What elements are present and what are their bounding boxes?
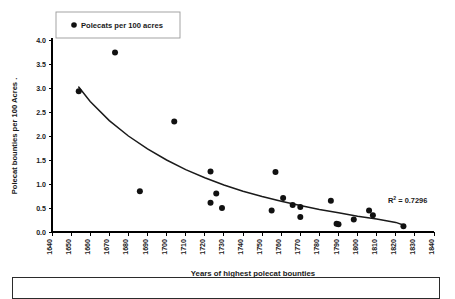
x-tick-label: 1690 bbox=[142, 239, 150, 255]
data-point[interactable] bbox=[370, 212, 376, 218]
x-tick-label: 1760 bbox=[275, 239, 283, 255]
x-tick-label: 1640 bbox=[46, 239, 54, 255]
x-tick-label: 1720 bbox=[199, 239, 207, 255]
bottom-frame-box bbox=[12, 277, 440, 299]
data-point[interactable] bbox=[351, 217, 357, 223]
y-tick-label: 4.0 bbox=[36, 37, 46, 45]
data-point[interactable] bbox=[272, 169, 278, 175]
data-point[interactable] bbox=[336, 221, 342, 227]
x-tick-label: 1670 bbox=[103, 239, 111, 255]
data-point[interactable] bbox=[213, 191, 219, 197]
x-tick-label: 1740 bbox=[237, 239, 245, 255]
y-tick-label: 0.0 bbox=[36, 229, 46, 237]
data-point[interactable] bbox=[112, 49, 118, 55]
data-point[interactable] bbox=[280, 195, 286, 201]
data-point[interactable] bbox=[76, 88, 82, 94]
data-point[interactable] bbox=[366, 207, 372, 213]
legend-label: Polecats per 100 acres bbox=[81, 21, 163, 30]
x-tick-label: 1800 bbox=[352, 239, 360, 255]
legend-marker-icon bbox=[71, 22, 77, 28]
data-point[interactable] bbox=[137, 188, 143, 194]
x-tick-label: 1820 bbox=[390, 239, 398, 255]
x-tick-label: 1830 bbox=[409, 239, 417, 255]
data-point[interactable] bbox=[290, 202, 296, 208]
y-tick-label: 0.5 bbox=[36, 205, 46, 213]
x-tick-label: 1840 bbox=[428, 239, 436, 255]
y-tick-label: 1.5 bbox=[36, 157, 46, 165]
x-tick-label: 1650 bbox=[65, 239, 73, 255]
data-point[interactable] bbox=[328, 198, 334, 204]
y-tick-label: 1.0 bbox=[36, 181, 46, 189]
x-tick-label: 1810 bbox=[371, 239, 379, 255]
x-tick-label: 1710 bbox=[180, 239, 188, 255]
x-tick-label: 1680 bbox=[122, 239, 130, 255]
y-tick-label: 2.0 bbox=[36, 133, 46, 141]
y-tick-label: 2.5 bbox=[36, 109, 46, 117]
data-point[interactable] bbox=[297, 214, 303, 220]
data-point[interactable] bbox=[400, 223, 406, 229]
x-tick-label: 1780 bbox=[313, 239, 321, 255]
data-point[interactable] bbox=[219, 205, 225, 211]
r-squared-annotation: R2 = 0.7296 bbox=[388, 195, 427, 205]
x-tick-label: 1770 bbox=[294, 239, 302, 255]
trendline bbox=[79, 87, 406, 226]
data-point[interactable] bbox=[171, 119, 177, 125]
x-tick-label: 1700 bbox=[161, 239, 169, 255]
x-tick-label: 1660 bbox=[84, 239, 92, 255]
data-point[interactable] bbox=[208, 200, 214, 206]
x-tick-label: 1730 bbox=[218, 239, 226, 255]
x-tick-label: 1750 bbox=[256, 239, 264, 255]
data-point[interactable] bbox=[269, 207, 275, 213]
data-point[interactable] bbox=[208, 169, 214, 175]
y-tick-label: 3.0 bbox=[36, 85, 46, 93]
y-tick-label: 3.5 bbox=[36, 61, 46, 69]
y-axis-title: Polecat bounties per 100 Acres . bbox=[10, 78, 19, 195]
x-tick-label: 1790 bbox=[333, 239, 341, 255]
data-point[interactable] bbox=[297, 204, 303, 210]
